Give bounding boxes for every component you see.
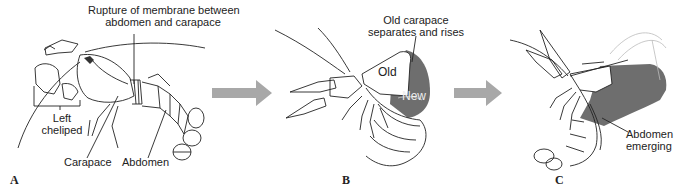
label-old-carapace-line2: separates and rises: [368, 26, 464, 38]
label-left-cheliped: Left cheliped: [40, 112, 84, 136]
label-carapace: Carapace: [64, 156, 112, 168]
panel-a: Rupture of membrane between abdomen and …: [0, 0, 215, 196]
label-old: Old: [378, 66, 397, 78]
panel-b: Old carapace separates and rises Old New…: [270, 0, 460, 196]
label-rupture-line2: abdomen and carapace: [88, 16, 238, 28]
label-abdomen-emerging-line2: emerging: [626, 140, 685, 152]
label-new: New: [402, 90, 426, 102]
label-abdomen-emerging-line1: Abdomen: [626, 128, 685, 140]
label-old-carapace-separates: Old carapace separates and rises: [368, 14, 464, 38]
label-cheliped-line1: Left: [40, 112, 84, 124]
panel-c: Abdomen emerging C: [500, 0, 685, 196]
panel-letter-c: C: [555, 173, 564, 188]
label-cheliped-line2: cheliped: [40, 124, 84, 136]
arrow-right-icon: [454, 78, 504, 108]
crayfish-abdomen-emerging-illustration: [500, 0, 685, 196]
panel-letter-a: A: [10, 173, 19, 188]
label-abdomen: Abdomen: [122, 156, 169, 168]
label-old-carapace-line1: Old carapace: [368, 14, 464, 26]
arrow-right-icon: [212, 78, 274, 108]
label-rupture-line1: Rupture of membrane between: [88, 4, 238, 16]
label-rupture-membrane: Rupture of membrane between abdomen and …: [88, 4, 238, 28]
label-abdomen-emerging: Abdomen emerging: [626, 128, 685, 152]
panel-letter-b: B: [342, 173, 350, 188]
